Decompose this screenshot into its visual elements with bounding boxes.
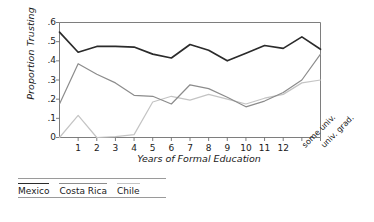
y-tick-label: .3 [38,76,56,85]
legend-item-costa-rica[interactable]: Costa Rica [59,181,107,197]
legend-label: Mexico [18,186,49,196]
y-tick-label: 0 [38,133,56,142]
series-line-mexico [60,32,321,61]
legend-item-chile[interactable]: Chile [117,181,140,197]
series-line-chile [60,80,321,138]
x-tick-label: 9 [219,144,235,153]
y-tick-label: .2 [38,95,56,104]
legend-label: Costa Rica [59,186,107,196]
x-tick-label: 5 [145,144,161,153]
x-tick-label: 12 [275,144,291,153]
legend-rule-top [18,178,166,179]
plot-frame [60,23,321,138]
series-line-costa-rica [60,54,321,107]
legend-swatch [59,183,107,184]
x-tick-label: 11 [257,144,273,153]
y-tick-label: .6 [38,18,56,27]
x-tick-label: 4 [126,144,142,153]
y-tick-label: .5 [38,37,56,46]
x-tick-label: 10 [238,144,254,153]
legend: MexicoCosta RicaChile [18,178,168,198]
chart-figure: Proportion Trusting 0.1.2.3.4.5.6 123456… [0,0,374,222]
legend-item-mexico[interactable]: Mexico [18,181,49,197]
x-tick-label: 7 [182,144,198,153]
y-tick-label: .1 [38,114,56,123]
legend-label: Chile [117,186,140,196]
legend-swatch [18,183,49,184]
x-tick-label: 8 [201,144,217,153]
y-tick-label: .4 [38,56,56,65]
legend-rule-bottom [18,197,166,198]
x-axis-label: Years of Formal Education [0,153,374,164]
x-tick-label: 6 [163,144,179,153]
legend-row: MexicoCosta RicaChile [18,181,168,197]
x-tick-label: 3 [107,144,123,153]
x-tick-label: 2 [89,144,105,153]
y-axis-label: Proportion Trusting [25,0,36,114]
x-tick-label: 1 [70,144,86,153]
legend-swatch [117,183,140,184]
